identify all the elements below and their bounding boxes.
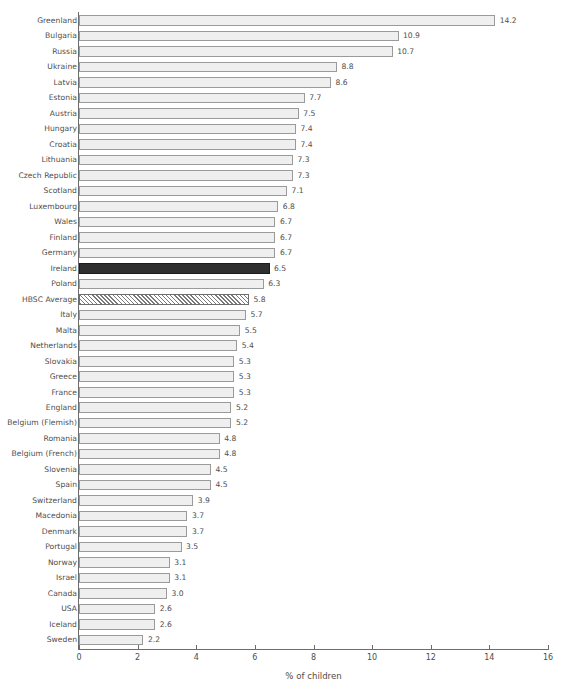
x-tick-label: 14 [477, 653, 501, 663]
bar [79, 588, 167, 599]
bar-row: England5.2 [0, 400, 570, 416]
bar-value-label: 5.4 [242, 338, 254, 354]
category-label: Lithuania [0, 152, 77, 168]
bar [79, 170, 293, 181]
bar-row: Scotland7.1 [0, 183, 570, 199]
category-label: Spain [0, 477, 77, 493]
bar [79, 573, 170, 584]
category-label: Italy [0, 307, 77, 323]
bar-value-label: 7.4 [300, 137, 312, 153]
bar-row: France5.3 [0, 385, 570, 401]
bar [79, 464, 211, 475]
category-label: England [0, 400, 77, 416]
bar-value-label: 3.1 [174, 555, 186, 571]
bar-value-label: 7.4 [300, 121, 312, 137]
bar-row: Belgium (Flemish)5.2 [0, 415, 570, 431]
bar-value-label: 5.3 [239, 385, 251, 401]
x-tick-mark [431, 645, 432, 649]
bar-row: Luxembourg6.8 [0, 199, 570, 215]
bar-value-label: 8.6 [336, 75, 348, 91]
category-label: Croatia [0, 137, 77, 153]
x-tick-label: 16 [536, 653, 560, 663]
category-label: Slovakia [0, 354, 77, 370]
bar-row: Poland6.3 [0, 276, 570, 292]
bar-row: Spain4.5 [0, 477, 570, 493]
bar-row: Malta5.5 [0, 323, 570, 339]
category-label: USA [0, 601, 77, 617]
bar-value-label: 2.6 [160, 617, 172, 633]
bar-row: Hungary7.4 [0, 121, 570, 137]
bar-row: Austria7.5 [0, 106, 570, 122]
bar-value-label: 5.7 [251, 307, 263, 323]
category-label: Estonia [0, 90, 77, 106]
x-tick-label: 6 [243, 653, 267, 663]
bar-row: Sweden2.2 [0, 632, 570, 648]
bar-value-label: 3.9 [198, 493, 210, 509]
bar-value-label: 2.6 [160, 601, 172, 617]
bar-row: Latvia8.6 [0, 75, 570, 91]
bar [79, 186, 287, 197]
category-label: Malta [0, 323, 77, 339]
x-tick-mark [489, 645, 490, 649]
bar-row: Slovenia4.5 [0, 462, 570, 478]
category-label: Belgium (French) [0, 446, 77, 462]
bar [79, 402, 231, 413]
bar [79, 108, 299, 119]
category-label: Belgium (Flemish) [0, 415, 77, 431]
bar-row: HBSC Average5.8 [0, 292, 570, 308]
bar [79, 31, 399, 42]
bar-value-label: 4.5 [215, 477, 227, 493]
category-label: Hungary [0, 121, 77, 137]
category-label: Czech Republic [0, 168, 77, 184]
bar-value-label: 6.7 [280, 230, 292, 246]
category-label: Bulgaria [0, 28, 77, 44]
bar-value-label: 5.3 [239, 354, 251, 370]
bar [79, 62, 337, 73]
bar [79, 433, 220, 444]
bar-row: Greece5.3 [0, 369, 570, 385]
bar [79, 480, 211, 491]
category-label: Netherlands [0, 338, 77, 354]
bar-row: Ukraine8.8 [0, 59, 570, 75]
x-axis-title: % of children [214, 671, 414, 681]
bar [79, 526, 187, 537]
bar-value-label: 5.2 [236, 415, 248, 431]
bar-row: Wales6.7 [0, 214, 570, 230]
x-tick-mark [138, 645, 139, 649]
bar-row: Iceland2.6 [0, 617, 570, 633]
bar-row: Norway3.1 [0, 555, 570, 571]
bar [79, 310, 246, 321]
category-label: Norway [0, 555, 77, 571]
x-tick-mark [255, 645, 256, 649]
bar-value-label: 5.2 [236, 400, 248, 416]
bar [79, 356, 234, 367]
category-label: Ireland [0, 261, 77, 277]
category-label: Russia [0, 44, 77, 60]
x-tick-label: 10 [360, 653, 384, 663]
bar [79, 604, 155, 615]
bar [79, 232, 275, 243]
bar-value-label: 6.3 [268, 276, 280, 292]
x-tick-label: 4 [184, 653, 208, 663]
bar-row: Slovakia5.3 [0, 354, 570, 370]
bar [79, 46, 393, 57]
bar [79, 557, 170, 568]
bar-row: Switzerland3.9 [0, 493, 570, 509]
bar [79, 418, 231, 429]
category-label: Austria [0, 106, 77, 122]
bar [79, 495, 193, 506]
category-label: Portugal [0, 539, 77, 555]
bar [79, 279, 264, 290]
bar [79, 248, 275, 259]
bar-value-label: 3.7 [192, 508, 204, 524]
bar-row: Greenland14.2 [0, 13, 570, 29]
bar-row: Belgium (French)4.8 [0, 446, 570, 462]
category-label: Ukraine [0, 59, 77, 75]
bar [79, 124, 296, 135]
bar-row: Russia10.7 [0, 44, 570, 60]
bar-row: Romania4.8 [0, 431, 570, 447]
bar [79, 155, 293, 166]
category-label: Latvia [0, 75, 77, 91]
category-label: Israel [0, 570, 77, 586]
bar-value-label: 7.3 [297, 152, 309, 168]
